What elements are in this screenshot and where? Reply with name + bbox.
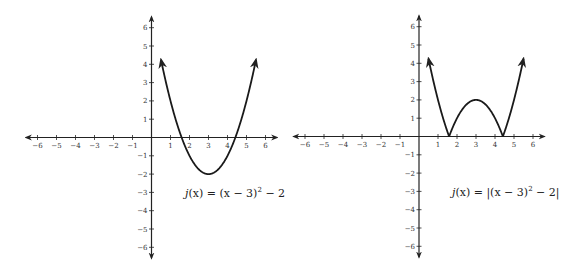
x-tick-label: −6: [32, 142, 43, 150]
x-tick-label: 1: [436, 141, 440, 149]
y-tick-label: 3: [411, 78, 415, 86]
x-tick-label: −3: [357, 141, 367, 149]
x-tick-label: −5: [319, 141, 329, 149]
x-tick-label: 3: [474, 141, 478, 149]
y-tick-label: 6: [143, 24, 148, 32]
x-tick-label: 2: [455, 141, 459, 149]
x-tick-label: 5: [244, 142, 248, 150]
x-tick-label: −4: [338, 141, 349, 149]
x-tick-label: 5: [512, 141, 516, 149]
x-tick-label: 6: [263, 142, 268, 150]
y-tick-label: −5: [137, 226, 147, 234]
y-tick-label: −5: [405, 225, 415, 233]
x-tick-label: −6: [300, 141, 311, 149]
x-tick-label: 6: [531, 141, 536, 149]
y-tick-label: −4: [137, 207, 148, 215]
x-tick-label: 1: [168, 142, 172, 150]
chart-canvas: −6−5−4−3−2−1123456−6−5−4−3−2−1123456j(x)…: [0, 0, 566, 273]
y-tick-label: −2: [405, 170, 415, 178]
y-tick-label: −1: [137, 152, 147, 160]
y-tick-label: 6: [411, 23, 416, 31]
y-tick-label: 4: [411, 60, 416, 68]
x-tick-label: −2: [108, 142, 118, 150]
y-tick-label: 5: [143, 43, 147, 51]
y-tick-label: 4: [143, 61, 148, 69]
graph-left-parabola: −6−5−4−3−2−1123456−6−5−4−3−2−1123456j(x)…: [26, 17, 285, 259]
x-tick-label: 3: [206, 142, 210, 150]
graph-right-absolute-value: −6−5−4−3−2−1123456−6−5−4−3−2−1123456j(x)…: [294, 16, 560, 258]
y-tick-label: 3: [143, 79, 147, 87]
y-tick-label: −6: [405, 243, 416, 251]
y-tick-label: −3: [405, 188, 415, 196]
y-tick-label: −1: [405, 151, 415, 159]
y-tick-label: −4: [405, 206, 416, 214]
equation-label: j(x) = (x − 3)2 − 2: [182, 186, 285, 200]
y-tick-label: −2: [137, 171, 147, 179]
y-tick-label: −3: [137, 189, 147, 197]
x-tick-label: 2: [187, 142, 191, 150]
x-tick-label: −2: [376, 141, 386, 149]
x-tick-label: −1: [395, 141, 405, 149]
x-tick-label: −1: [127, 142, 137, 150]
y-tick-label: −6: [137, 244, 148, 252]
y-tick-label: 1: [143, 116, 147, 124]
y-tick-label: 2: [143, 97, 147, 105]
equation-label: j(x) = |(x − 3)2 − 2|: [449, 185, 560, 200]
y-tick-label: 1: [411, 115, 415, 123]
function-curve: [429, 59, 524, 136]
x-tick-label: 4: [493, 141, 498, 149]
function-curve: [161, 60, 256, 174]
x-tick-label: 4: [225, 142, 230, 150]
y-tick-label: 2: [411, 96, 415, 104]
x-tick-label: −3: [89, 142, 99, 150]
x-tick-label: −5: [51, 142, 61, 150]
y-tick-label: 5: [411, 42, 415, 50]
x-tick-label: −4: [70, 142, 81, 150]
